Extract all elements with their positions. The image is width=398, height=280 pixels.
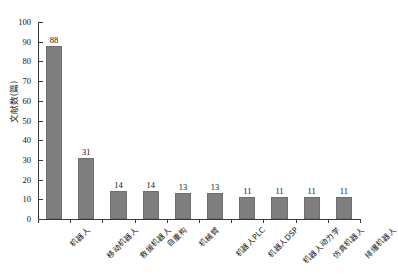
- bar: [207, 193, 223, 219]
- x-tick-mark: [263, 219, 264, 223]
- x-tick-mark: [102, 219, 103, 223]
- y-tick-label: 90: [23, 37, 32, 47]
- bar-value-label: 11: [340, 186, 348, 196]
- bar-value-label: 13: [179, 182, 188, 192]
- bar: [143, 191, 159, 219]
- y-tick-label: 0: [27, 214, 31, 224]
- bar: [304, 197, 320, 219]
- x-category-label: 移动机器人: [104, 224, 140, 260]
- bar: [271, 197, 287, 219]
- y-tick-label: 10: [23, 194, 32, 204]
- x-tick-mark: [135, 219, 136, 223]
- bar: [110, 191, 126, 219]
- y-tick-label: 70: [23, 76, 32, 86]
- y-tick-mark: [39, 140, 43, 141]
- x-category-label: 机器人: [67, 224, 92, 249]
- x-tick-mark: [360, 219, 361, 223]
- bar-value-label: 88: [50, 35, 59, 45]
- y-tick-label: 80: [23, 56, 32, 66]
- y-tick-label: 60: [23, 96, 32, 106]
- y-tick-label: 20: [23, 175, 32, 185]
- x-category-label: 排爆机器人: [362, 224, 398, 260]
- x-tick-mark: [328, 219, 329, 223]
- x-tick-mark: [231, 219, 232, 223]
- bar: [239, 197, 255, 219]
- x-category-label: 机器人PLC: [232, 224, 267, 259]
- y-tick-label: 50: [23, 116, 32, 126]
- bar-value-label: 11: [275, 186, 283, 196]
- bar: [46, 46, 62, 219]
- bar: [175, 193, 191, 219]
- x-tick-mark: [167, 219, 168, 223]
- y-tick-label: 30: [23, 155, 32, 165]
- y-tick-label: 100: [18, 17, 31, 27]
- x-category-label: 机器人动力学: [300, 224, 342, 266]
- bar-value-label: 11: [243, 186, 251, 196]
- y-tick-mark: [39, 199, 43, 200]
- x-tick-mark: [296, 219, 297, 223]
- bar-value-label: 11: [308, 186, 316, 196]
- x-category-label: 机器人DSP: [265, 224, 301, 260]
- x-tick-mark: [70, 219, 71, 223]
- bar-value-label: 14: [146, 180, 155, 190]
- x-tick-mark: [38, 219, 39, 223]
- y-tick-mark: [39, 81, 43, 82]
- bar-value-label: 13: [211, 182, 220, 192]
- y-tick-mark: [39, 22, 43, 23]
- y-tick-mark: [39, 101, 43, 102]
- bar: [78, 158, 94, 219]
- y-tick-mark: [39, 180, 43, 181]
- y-tick-mark: [39, 42, 43, 43]
- x-tick-mark: [199, 219, 200, 223]
- y-tick-mark: [39, 121, 43, 122]
- y-tick-mark: [39, 61, 43, 62]
- y-tick-label: 40: [23, 135, 32, 145]
- bar: [336, 197, 352, 219]
- bar-value-label: 14: [114, 180, 123, 190]
- plot-area: 0102030405060708090100 88311414131311111…: [38, 22, 360, 220]
- y-axis-title: 文献数(篇): [7, 67, 19, 137]
- y-tick-mark: [39, 160, 43, 161]
- x-category-label: 机械臂: [196, 224, 221, 249]
- y-tick-mark: [39, 219, 43, 220]
- bar-value-label: 31: [82, 147, 91, 157]
